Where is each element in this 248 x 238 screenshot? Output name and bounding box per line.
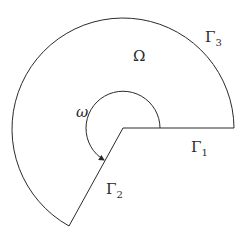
- gamma-1-label: Γ1: [191, 138, 208, 158]
- sector-domain-diagram: Ω Γ3 ω Γ1 Γ2: [0, 0, 248, 238]
- boundary-gamma-2: [69, 128, 123, 226]
- boundary-gamma-3: [12, 18, 234, 226]
- domain-label: Ω: [133, 47, 145, 65]
- gamma-2-label: Γ2: [106, 180, 123, 200]
- gamma-3-label: Γ3: [205, 28, 222, 48]
- angle-label: ω: [76, 103, 88, 121]
- angle-arc: [86, 91, 160, 160]
